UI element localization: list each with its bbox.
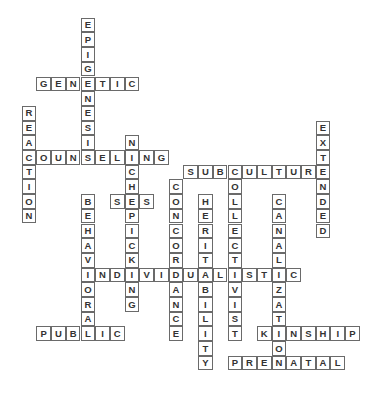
crossword-cell[interactable]: T (257, 268, 272, 283)
crossword-cell[interactable]: T (301, 356, 316, 371)
crossword-cell[interactable]: G (81, 62, 96, 77)
crossword-cell[interactable]: T (228, 253, 243, 268)
crossword-cell[interactable]: P (36, 326, 51, 341)
crossword-cell[interactable]: S (228, 312, 243, 327)
crossword-cell[interactable]: O (169, 194, 184, 209)
crossword-cell[interactable]: B (198, 282, 213, 297)
crossword-cell[interactable]: N (272, 224, 287, 239)
crossword-cell[interactable]: A (272, 238, 287, 253)
crossword-cell[interactable]: L (330, 356, 345, 371)
crossword-cell[interactable]: N (139, 150, 154, 165)
crossword-cell[interactable]: E (95, 150, 110, 165)
crossword-cell[interactable]: U (242, 165, 257, 180)
crossword-cell[interactable]: O (228, 179, 243, 194)
crossword-cell[interactable]: L (81, 326, 96, 341)
crossword-cell[interactable]: H (316, 326, 331, 341)
crossword-cell[interactable]: U (51, 326, 66, 341)
crossword-cell[interactable]: C (272, 194, 287, 209)
crossword-cell[interactable]: U (51, 150, 66, 165)
crossword-cell[interactable]: C (22, 150, 37, 165)
crossword-cell[interactable]: S (139, 194, 154, 209)
crossword-cell[interactable]: I (95, 326, 110, 341)
crossword-cell[interactable]: S (242, 268, 257, 283)
crossword-cell[interactable]: L (213, 268, 228, 283)
crossword-cell[interactable]: N (125, 135, 140, 150)
crossword-cell[interactable]: C (228, 165, 243, 180)
crossword-cell[interactable]: I (198, 297, 213, 312)
crossword-cell[interactable]: I (330, 326, 345, 341)
crossword-cell[interactable]: S (110, 194, 125, 209)
crossword-cell[interactable]: I (81, 47, 96, 62)
crossword-cell[interactable]: I (272, 268, 287, 283)
crossword-cell[interactable]: G (154, 150, 169, 165)
crossword-cell[interactable]: N (125, 282, 140, 297)
crossword-cell[interactable]: U (286, 165, 301, 180)
crossword-cell[interactable]: E (81, 209, 96, 224)
crossword-cell[interactable]: P (228, 356, 243, 371)
crossword-cell[interactable]: V (139, 268, 154, 283)
crossword-cell[interactable]: S (183, 165, 198, 180)
crossword-cell[interactable]: D (316, 224, 331, 239)
crossword-cell[interactable]: C (169, 224, 184, 239)
crossword-cell[interactable]: C (228, 238, 243, 253)
crossword-cell[interactable]: T (198, 341, 213, 356)
crossword-cell[interactable]: R (169, 253, 184, 268)
crossword-cell[interactable]: T (316, 150, 331, 165)
crossword-cell[interactable]: I (110, 77, 125, 92)
crossword-cell[interactable]: L (228, 209, 243, 224)
crossword-cell[interactable]: B (213, 165, 228, 180)
crossword-cell[interactable]: T (272, 165, 287, 180)
crossword-cell[interactable]: I (228, 297, 243, 312)
crossword-cell[interactable]: L (257, 165, 272, 180)
crossword-cell[interactable]: E (22, 121, 37, 136)
crossword-cell[interactable]: P (81, 32, 96, 47)
crossword-cell[interactable]: C (125, 77, 140, 92)
crossword-cell[interactable]: R (198, 224, 213, 239)
crossword-cell[interactable]: I (198, 238, 213, 253)
crossword-cell[interactable]: H (125, 179, 140, 194)
crossword-cell[interactable]: C (110, 326, 125, 341)
crossword-cell[interactable]: I (22, 179, 37, 194)
crossword-cell[interactable]: K (125, 253, 140, 268)
crossword-cell[interactable]: D (316, 194, 331, 209)
crossword-cell[interactable]: E (198, 209, 213, 224)
crossword-cell[interactable]: E (125, 194, 140, 209)
crossword-cell[interactable]: R (301, 165, 316, 180)
crossword-cell[interactable]: C (169, 312, 184, 327)
crossword-cell[interactable]: S (301, 326, 316, 341)
crossword-cell[interactable]: N (286, 326, 301, 341)
crossword-cell[interactable]: C (125, 238, 140, 253)
crossword-cell[interactable]: P (345, 326, 360, 341)
crossword-cell[interactable]: N (316, 179, 331, 194)
crossword-cell[interactable]: A (198, 268, 213, 283)
crossword-cell[interactable]: X (316, 135, 331, 150)
crossword-cell[interactable]: O (36, 150, 51, 165)
crossword-cell[interactable]: N (22, 209, 37, 224)
crossword-cell[interactable]: A (22, 135, 37, 150)
crossword-cell[interactable]: E (81, 18, 96, 33)
crossword-cell[interactable]: I (228, 268, 243, 283)
crossword-cell[interactable]: N (272, 356, 287, 371)
crossword-cell[interactable]: A (286, 356, 301, 371)
crossword-cell[interactable]: N (66, 77, 81, 92)
crossword-cell[interactable]: E (51, 77, 66, 92)
crossword-cell[interactable]: E (169, 326, 184, 341)
crossword-cell[interactable]: I (125, 150, 140, 165)
crossword-cell[interactable]: T (95, 77, 110, 92)
crossword-cell[interactable]: B (81, 194, 96, 209)
crossword-cell[interactable]: H (198, 194, 213, 209)
crossword-cell[interactable]: N (66, 150, 81, 165)
crossword-cell[interactable]: O (272, 341, 287, 356)
crossword-cell[interactable]: L (110, 150, 125, 165)
crossword-cell[interactable]: Z (272, 282, 287, 297)
crossword-cell[interactable]: L (272, 253, 287, 268)
crossword-cell[interactable]: L (198, 312, 213, 327)
crossword-cell[interactable]: U (183, 268, 198, 283)
crossword-cell[interactable]: S (81, 150, 96, 165)
crossword-cell[interactable]: Y (198, 356, 213, 371)
crossword-cell[interactable]: A (81, 312, 96, 327)
crossword-cell[interactable]: I (81, 135, 96, 150)
crossword-cell[interactable]: E (81, 106, 96, 121)
crossword-cell[interactable]: G (36, 77, 51, 92)
crossword-cell[interactable]: A (272, 209, 287, 224)
